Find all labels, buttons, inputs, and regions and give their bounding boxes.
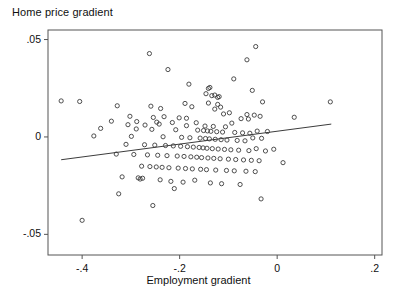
data-point	[151, 115, 155, 119]
data-point	[210, 147, 214, 151]
data-point	[245, 112, 249, 116]
data-point	[216, 147, 220, 151]
data-point	[199, 156, 203, 160]
data-point	[254, 44, 258, 48]
data-point	[176, 166, 180, 170]
data-point	[143, 123, 147, 127]
data-point	[172, 186, 176, 190]
data-point	[203, 124, 207, 128]
data-point	[196, 128, 200, 132]
data-point	[132, 152, 136, 156]
data-point	[245, 58, 249, 62]
data-point	[199, 167, 203, 171]
data-point	[233, 130, 237, 134]
data-point	[159, 106, 163, 110]
data-point	[211, 124, 215, 128]
data-point	[151, 203, 155, 207]
data-point	[220, 130, 224, 134]
data-point	[213, 107, 217, 111]
data-point	[148, 164, 152, 168]
data-point	[191, 145, 195, 149]
data-point	[204, 168, 208, 172]
data-point	[183, 166, 187, 170]
data-point	[221, 112, 225, 116]
data-point	[204, 92, 208, 96]
data-point	[140, 164, 144, 168]
data-point	[184, 116, 188, 120]
data-point	[252, 113, 256, 117]
data-point	[169, 179, 173, 183]
data-point	[188, 136, 192, 140]
fit-line-layer	[61, 124, 331, 160]
data-point	[156, 153, 160, 157]
data-point	[229, 148, 233, 152]
data-point	[149, 104, 153, 108]
data-point	[184, 124, 188, 128]
data-point	[263, 149, 267, 153]
data-point	[230, 121, 234, 125]
data-point	[59, 99, 63, 103]
data-point	[253, 170, 257, 174]
data-point	[218, 157, 222, 161]
data-point	[260, 100, 264, 104]
data-point	[254, 147, 258, 151]
x-tick-label: .2	[355, 262, 395, 274]
data-point	[99, 126, 103, 130]
plot-canvas	[0, 0, 397, 297]
data-point	[219, 105, 223, 109]
x-axis-title: Employment gradient	[0, 274, 397, 286]
data-point	[161, 135, 165, 139]
data-point	[154, 165, 158, 169]
data-point	[124, 142, 128, 146]
data-point	[206, 101, 210, 105]
data-point	[206, 156, 210, 160]
data-point	[257, 159, 261, 163]
data-point	[292, 115, 296, 119]
y-tick-label: .05	[26, 33, 41, 45]
data-point	[189, 155, 193, 159]
data-point	[158, 178, 162, 182]
data-point	[234, 157, 238, 161]
y-tick-label: 0	[35, 130, 41, 142]
data-point	[92, 134, 96, 138]
data-point	[185, 145, 189, 149]
data-point	[109, 119, 113, 123]
data-point	[226, 157, 230, 161]
data-point	[251, 136, 255, 140]
data-point	[247, 148, 251, 152]
data-point	[232, 169, 236, 173]
data-point	[160, 165, 164, 169]
data-point	[225, 138, 229, 142]
data-point	[235, 138, 239, 142]
data-point	[177, 116, 181, 120]
data-point	[115, 104, 119, 108]
data-point	[147, 51, 151, 55]
data-point	[182, 154, 186, 158]
plot-border	[48, 30, 382, 255]
data-point	[162, 115, 166, 119]
data-point	[244, 169, 248, 173]
data-point	[238, 182, 242, 186]
data-point	[181, 180, 185, 184]
data-point	[142, 143, 146, 147]
data-point	[183, 101, 187, 105]
data-point	[129, 134, 133, 138]
data-points-layer	[59, 44, 332, 222]
data-point	[214, 168, 218, 172]
data-point	[135, 119, 139, 123]
data-point	[246, 117, 250, 121]
data-point	[212, 156, 216, 160]
data-point	[80, 218, 84, 222]
data-point	[219, 182, 223, 186]
x-tick-label: 0	[257, 262, 297, 274]
plot-frame	[48, 30, 382, 255]
data-point	[190, 167, 194, 171]
data-point	[167, 166, 171, 170]
data-point	[223, 125, 227, 129]
data-point	[250, 88, 254, 92]
data-point	[153, 143, 157, 147]
data-point	[175, 154, 179, 158]
data-point	[170, 120, 174, 124]
data-point	[239, 117, 243, 121]
data-point	[187, 82, 191, 86]
